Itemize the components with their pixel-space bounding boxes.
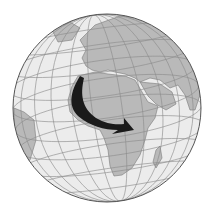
globe-map <box>0 0 213 221</box>
